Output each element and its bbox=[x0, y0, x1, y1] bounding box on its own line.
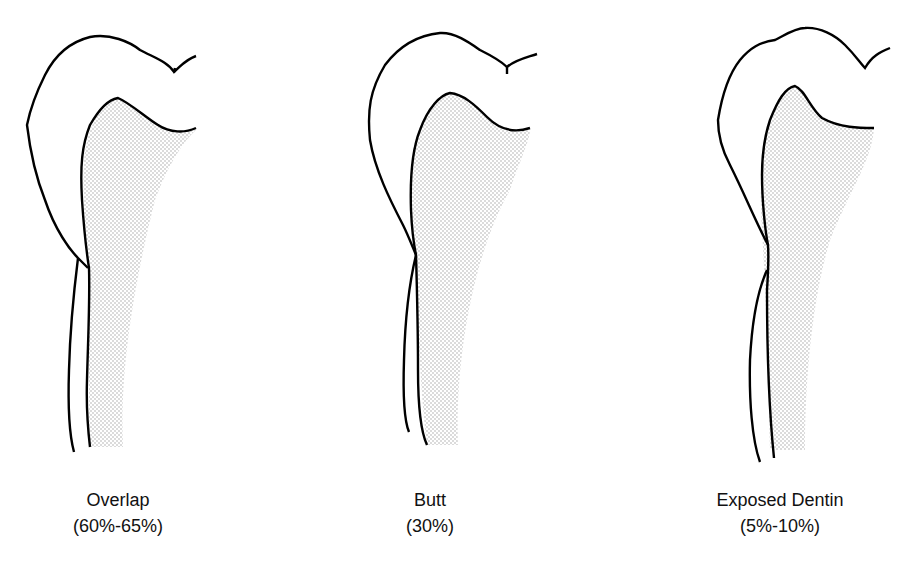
diagram-panel-exposed-dentin: Exposed Dentin (5%-10%) bbox=[0, 0, 902, 570]
caption-title: Exposed Dentin bbox=[690, 487, 870, 513]
tooth-diagram-exposed-dentin bbox=[0, 0, 902, 470]
dentin-area bbox=[761, 86, 874, 450]
caption-exposed-dentin: Exposed Dentin (5%-10%) bbox=[690, 487, 870, 539]
caption-percent: (5%-10%) bbox=[690, 513, 870, 539]
cementum-outline bbox=[750, 270, 767, 462]
